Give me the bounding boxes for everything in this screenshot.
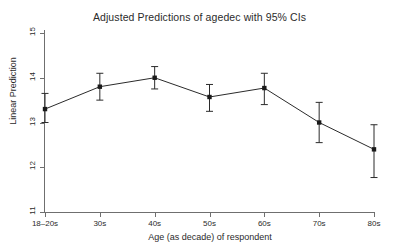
data-series-layer	[0, 0, 399, 250]
data-point-marker	[262, 86, 266, 90]
data-point-marker	[98, 85, 102, 89]
data-point-marker	[207, 95, 211, 99]
data-point-marker	[317, 120, 321, 124]
data-point-marker	[152, 76, 156, 80]
chart-figure: Adjusted Predictions of agedec with 95% …	[0, 0, 399, 250]
data-point-marker	[43, 107, 47, 111]
data-point-marker	[372, 147, 376, 151]
